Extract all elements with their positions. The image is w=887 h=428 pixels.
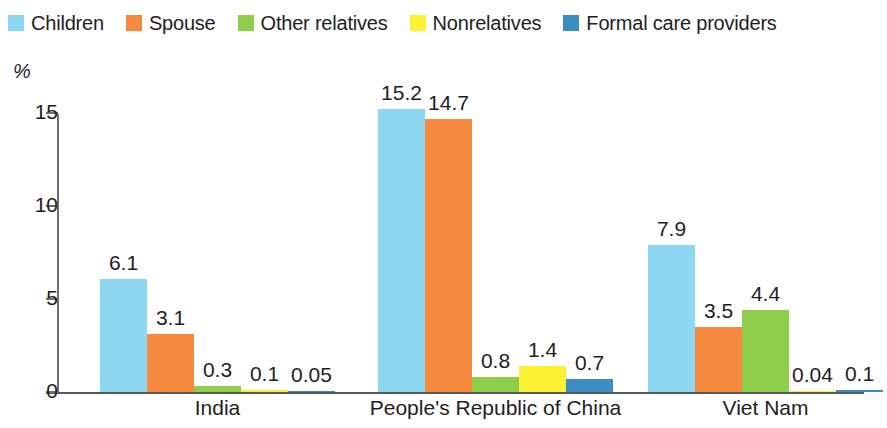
bar: [241, 390, 288, 392]
chart-legend: ChildrenSpouseOther relativesNonrelative…: [8, 8, 859, 38]
bar: [378, 109, 425, 392]
legend-item-label: Nonrelatives: [433, 13, 542, 33]
legend-swatch-icon: [563, 15, 579, 31]
bar-value-label: 4.4: [728, 283, 803, 304]
legend-item: Spouse: [126, 13, 216, 33]
legend-swatch-icon: [410, 15, 426, 31]
legend-swatch-icon: [8, 15, 24, 31]
legend-item: Formal care providers: [563, 13, 776, 33]
bar: [194, 386, 241, 392]
legend-item: Nonrelatives: [410, 13, 542, 33]
bar: [100, 279, 147, 392]
bar-value-label: 0.1: [822, 363, 887, 384]
bar: [288, 391, 335, 392]
bars-layer: 6.13.10.30.10.0515.214.70.81.40.77.93.54…: [0, 44, 867, 394]
bar: [695, 327, 742, 392]
bar-value-label: 0.7: [552, 352, 627, 373]
legend-item-label: Other relatives: [261, 13, 388, 33]
bar-value-label: 7.9: [634, 218, 709, 239]
legend-swatch-icon: [238, 15, 254, 31]
bar: [566, 379, 613, 392]
bar: [472, 377, 519, 392]
bar: [836, 390, 883, 392]
bar-value-label: 3.1: [133, 307, 208, 328]
bar-value-label: 0.05: [274, 364, 349, 385]
bar: [789, 391, 836, 392]
chart-plot-area: % 151050 6.13.10.30.10.0515.214.70.81.40…: [0, 44, 867, 428]
category-label: Viet Nam: [586, 396, 887, 420]
bar-value-label: 6.1: [86, 252, 161, 273]
legend-swatch-icon: [126, 15, 142, 31]
bar-value-label: 14.7: [411, 92, 486, 113]
legend-item-label: Children: [31, 13, 104, 33]
legend-item-label: Spouse: [149, 13, 216, 33]
legend-item: Other relatives: [238, 13, 388, 33]
legend-item: Children: [8, 13, 104, 33]
legend-item-label: Formal care providers: [586, 13, 776, 33]
